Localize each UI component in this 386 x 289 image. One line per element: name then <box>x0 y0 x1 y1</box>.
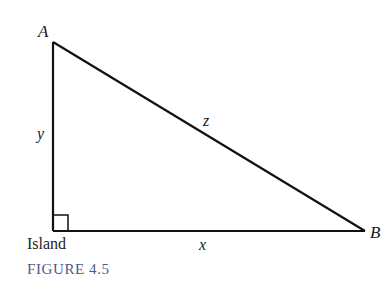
right-angle-marker <box>53 215 68 231</box>
side-y-label: y <box>37 126 44 142</box>
island-label: Island <box>27 236 66 252</box>
vertex-a-label: A <box>38 23 48 40</box>
figure-caption: FIGURE 4.5 <box>27 261 110 278</box>
side-z-hypotenuse <box>53 42 365 231</box>
side-z-label: z <box>203 113 209 129</box>
right-triangle-diagram: A B Island y x z FIGURE 4.5 <box>0 0 386 289</box>
vertex-b-label: B <box>370 224 380 241</box>
side-x-label: x <box>199 237 206 253</box>
